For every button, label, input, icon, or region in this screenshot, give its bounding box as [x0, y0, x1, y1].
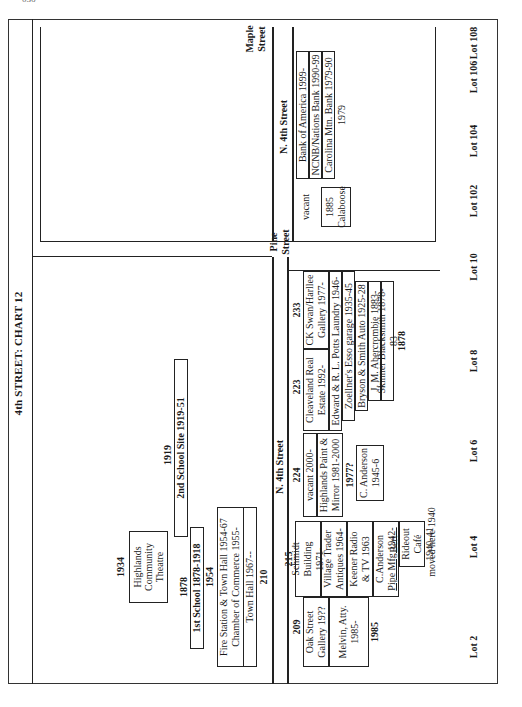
upper-block-divider — [32, 256, 272, 257]
lot-label: Lot 4 — [468, 527, 480, 567]
lower-block-top — [287, 257, 288, 684]
cell-text: NCNB/Nations Bank 1990-99 — [310, 54, 322, 175]
lot215-cell-1: Schmidt Building 1971- — [295, 521, 321, 597]
east-vacant: vacant — [300, 187, 312, 227]
chart-stage: 4th STREET: CHART 12 1934 Highlands Comm… — [0, 0, 522, 707]
lot-label: Lot 102 — [468, 179, 480, 223]
cell-text: Village Trader — [322, 530, 334, 587]
bank-row-3: Carolina Mtn. Bank 1979-90 — [322, 51, 335, 179]
street-pine-1: Pine — [268, 222, 280, 262]
cell-text: C. Anderson — [358, 448, 370, 498]
lot210-line: Town Hall 1967-- — [244, 508, 256, 666]
calaboose-box: 1885 Calaboose — [321, 187, 351, 227]
lot210-number: 210 — [258, 557, 270, 597]
cell-text: Antiques 1964- — [334, 528, 346, 590]
title-divider — [32, 19, 33, 684]
street-maple-1: Maple — [244, 19, 256, 59]
cell-text: CK Swan/Harllee — [304, 275, 316, 346]
cell-text: Gallery 1977- — [316, 282, 328, 338]
cell-text: Schmidt Building — [290, 524, 314, 594]
bank-row-2: NCNB/Nations Bank 1990-99 — [309, 51, 322, 179]
street-n4th-left: N. 4th Street — [274, 427, 286, 507]
cell-text: C.Anderson — [374, 535, 386, 583]
shared-row-3: Bryson & Smith Auto 1925-28 — [355, 281, 368, 411]
theatre-year: 1934 — [115, 527, 127, 607]
lot224-box-2: C. Anderson 1945-6 — [356, 445, 384, 501]
school2-label: 2nd School Site 1919-51 — [175, 360, 187, 536]
cell-text: vacant 2000- — [304, 449, 316, 501]
lot233-number: 233 — [291, 290, 303, 330]
lot215-cell-5: Bert Rideout Café 1940-41 — [399, 521, 425, 567]
pine-line-upper — [40, 241, 435, 242]
lot210-box: Fire Station & Town Hall 1954-67 Chamber… — [217, 507, 257, 667]
cell-text: Zoellner's Esso garage 1935-45 — [343, 283, 355, 409]
street-n4th-right: N. 4th Street — [278, 87, 290, 167]
cell-text: Bert Rideout — [388, 524, 412, 564]
lot224-cell-2: Highlands Paint & Mirror 1981-2000 — [317, 433, 343, 517]
lot233-cell-1: CK Swan/Harllee Gallery 1977- — [303, 271, 329, 349]
cell-text: Melvin, Atty. — [337, 606, 349, 659]
lot209-year: 1985 — [369, 612, 381, 652]
pine-line-lower — [300, 270, 435, 271]
east-lower-line — [292, 27, 294, 242]
lot215-cell-2: Village Trader Antiques 1964- — [321, 521, 347, 597]
cell-text: Bryson & Smith Auto 1925-28 — [356, 284, 368, 407]
shared-row-1: Edward & R. L. Potts Laundry 1946- — [329, 271, 342, 431]
shared-row-2: Zoellner's Esso garage 1935-45 — [342, 271, 355, 421]
lot210-year: 1954 — [204, 557, 216, 597]
maple-top-line — [40, 27, 41, 242]
cell-text: Carolina Mtn. Bank 1979-90 — [323, 57, 335, 173]
cell-text: Bank of America 1999- — [297, 68, 309, 162]
bank-row-1: Bank of America 1999- — [296, 51, 309, 179]
lot223-number: 223 — [291, 367, 303, 407]
lot223-cell-1: Cleaveland Real Estate 1992- — [303, 349, 329, 431]
cell-text: Highlands Paint & — [318, 438, 330, 512]
lot224-year: 1977? — [344, 455, 356, 495]
street-pine-2: Street — [280, 222, 292, 262]
school2-year: 1919 — [162, 425, 174, 485]
lot-label: Lot 10 — [468, 247, 480, 287]
school2-box: 2nd School Site 1919-51 — [174, 359, 188, 537]
cell-text: Edward & R. L. Potts Laundry 1946- — [330, 277, 342, 426]
cell-text: Gallery 19?? — [316, 606, 328, 657]
cell-text: Oak Street — [304, 611, 316, 654]
cell-text: Calaboose — [336, 186, 348, 228]
bank-year: 1979 — [336, 95, 348, 135]
cell-text: Keener Radio — [348, 531, 360, 586]
lot-label: Lot 104 — [468, 119, 480, 163]
cell-text: & TV 1963 — [360, 536, 372, 582]
shared-row-5: Skinner Blacksmith 1878-83 — [381, 281, 394, 401]
cell-text: 1945-6 — [370, 459, 382, 487]
cell-text: 1985- — [349, 620, 361, 643]
theatre-box: Highlands Community Theatre — [129, 531, 168, 603]
lot209-cell-2: Melvin, Atty. 1985- — [329, 597, 369, 667]
lot210-line: Chamber of Commerce 1955- — [230, 508, 242, 666]
street-maple-2: Street — [256, 19, 268, 59]
lot209-number: 209 — [291, 607, 303, 647]
chart-title: 4th STREET: CHART 12 — [12, 0, 24, 707]
cell-text: Cleaveland Real — [304, 357, 316, 423]
east-block-bottom — [435, 27, 436, 242]
school1-label: 1st School 1878-1918 — [191, 528, 203, 648]
lot-label: Lot 6 — [468, 431, 480, 471]
lot224-number: 224 — [291, 455, 303, 495]
lot-label: Lot 8 — [468, 341, 480, 381]
lot224-cell-1: vacant 2000- — [303, 433, 317, 517]
cell-text: 1885 — [324, 197, 336, 217]
lot-label: Lot 2 — [468, 627, 480, 667]
lot215-cell-3: Keener Radio & TV 1963 — [347, 521, 373, 597]
theatre-line: Theatre — [154, 532, 166, 602]
shared-year: 1878 — [396, 321, 408, 361]
lot210-line: Fire Station & Town Hall 1954-67 — [218, 508, 230, 666]
school1-year: 1878 — [178, 557, 190, 617]
lot209-cell-1: Oak Street Gallery 19?? — [303, 597, 329, 667]
lot215-note: moved here 1940 — [426, 507, 438, 577]
cell-text: Mirror 1981-2000 — [330, 439, 342, 512]
east-n4th-line — [272, 27, 274, 242]
cell-text: Estate 1992- — [316, 365, 328, 415]
school1-box: 1st School 1878-1918 — [190, 527, 204, 649]
lot-label: Lot 108 — [468, 21, 480, 65]
